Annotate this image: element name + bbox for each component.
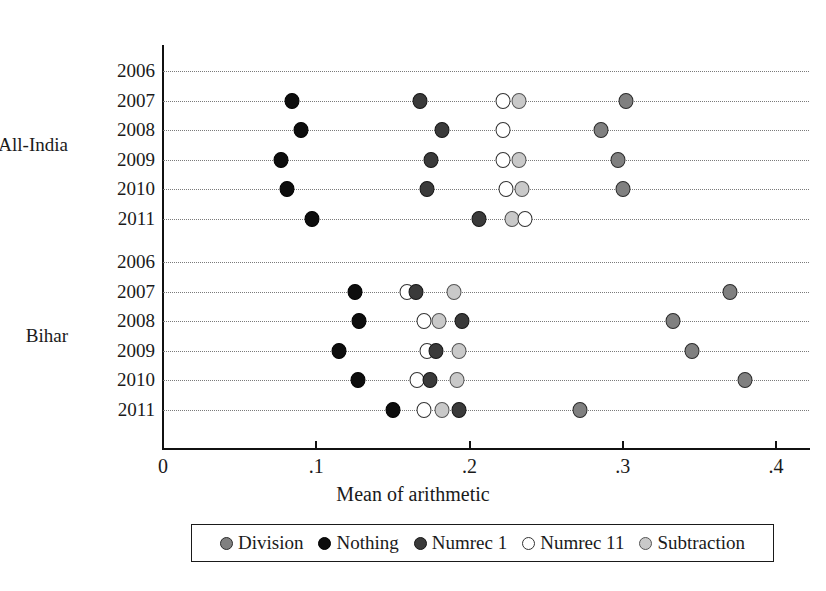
legend-swatch-numrec-11-icon bbox=[522, 537, 535, 550]
data-point-numrec-1 bbox=[419, 181, 434, 197]
x-tick-label-3: .3 bbox=[593, 455, 653, 477]
legend-label: Nothing bbox=[336, 533, 398, 553]
data-point-division bbox=[611, 152, 626, 168]
data-point-numrec-11 bbox=[496, 122, 511, 138]
x-tick-mark bbox=[622, 441, 624, 450]
data-point-numrec-11 bbox=[499, 181, 514, 197]
data-point-numrec-11 bbox=[517, 211, 532, 227]
legend-swatch-subtraction-icon bbox=[639, 537, 652, 550]
data-point-division bbox=[684, 343, 699, 359]
legend-swatch-division-icon bbox=[220, 537, 233, 550]
x-tick-mark bbox=[775, 441, 777, 450]
y-group-label-bihar: Bihar bbox=[0, 326, 68, 345]
data-point-nothing bbox=[274, 152, 289, 168]
data-point-numrec-11 bbox=[416, 402, 431, 418]
data-point-division bbox=[572, 402, 587, 418]
y-tick-label-2008: 2008 bbox=[85, 311, 155, 330]
y-tick-label-2007: 2007 bbox=[85, 282, 155, 301]
y-tick-label-2009: 2009 bbox=[85, 341, 155, 360]
data-point-nothing bbox=[293, 122, 308, 138]
data-point-division bbox=[666, 313, 681, 329]
data-point-subtraction bbox=[511, 152, 526, 168]
data-point-nothing bbox=[347, 284, 362, 300]
data-point-numrec-1 bbox=[471, 211, 486, 227]
data-point-subtraction bbox=[431, 313, 446, 329]
data-point-subtraction bbox=[514, 181, 529, 197]
data-point-numrec-11 bbox=[496, 93, 511, 109]
legend-label: Numrec 11 bbox=[540, 533, 624, 553]
x-axis-title: Mean of arithmetic bbox=[0, 482, 826, 506]
data-point-subtraction bbox=[511, 93, 526, 109]
data-point-division bbox=[723, 284, 738, 300]
data-point-division bbox=[738, 372, 753, 388]
x-tick-label-1: .1 bbox=[286, 455, 346, 477]
x-tick-label-0: 0 bbox=[133, 455, 193, 477]
legend-label: Division bbox=[238, 533, 303, 553]
data-point-numrec-11 bbox=[496, 152, 511, 168]
dot-plot-chart: 2006200720082009201020112006200720082009… bbox=[0, 0, 826, 591]
x-tick-label-4: .4 bbox=[746, 455, 806, 477]
y-tick-label-2010: 2010 bbox=[85, 179, 155, 198]
x-tick-mark bbox=[162, 441, 164, 450]
data-point-nothing bbox=[280, 181, 295, 197]
legend-item-subtraction[interactable]: Subtraction bbox=[639, 533, 745, 553]
data-point-subtraction bbox=[450, 372, 465, 388]
data-point-nothing bbox=[304, 211, 319, 227]
x-tick-label-2: .2 bbox=[440, 455, 500, 477]
data-point-subtraction bbox=[451, 343, 466, 359]
y-tick-label-2011: 2011 bbox=[85, 400, 155, 419]
data-marker-layer bbox=[163, 45, 809, 446]
data-point-numrec-1 bbox=[428, 343, 443, 359]
data-point-numrec-1 bbox=[454, 313, 469, 329]
y-tick-label-2006: 2006 bbox=[85, 61, 155, 80]
data-point-nothing bbox=[332, 343, 347, 359]
x-tick-mark bbox=[315, 441, 317, 450]
data-point-nothing bbox=[352, 313, 367, 329]
y-tick-label-2010: 2010 bbox=[85, 370, 155, 389]
data-point-numrec-1 bbox=[434, 122, 449, 138]
data-point-numrec-1 bbox=[451, 402, 466, 418]
legend-item-numrec-1[interactable]: Numrec 1 bbox=[414, 533, 507, 553]
data-point-nothing bbox=[385, 402, 400, 418]
data-point-nothing bbox=[350, 372, 365, 388]
y-tick-label-2009: 2009 bbox=[85, 150, 155, 169]
y-tick-label-2011: 2011 bbox=[85, 209, 155, 228]
legend-swatch-nothing-icon bbox=[318, 537, 331, 550]
y-tick-label-2006: 2006 bbox=[85, 252, 155, 271]
data-point-numrec-1 bbox=[408, 284, 423, 300]
legend-item-division[interactable]: Division bbox=[220, 533, 303, 553]
x-tick-mark bbox=[469, 441, 471, 450]
data-point-nothing bbox=[284, 93, 299, 109]
data-point-division bbox=[594, 122, 609, 138]
y-group-label-all-india: All-India bbox=[0, 135, 68, 154]
data-point-subtraction bbox=[447, 284, 462, 300]
y-tick-label-2007: 2007 bbox=[85, 91, 155, 110]
legend-label: Numrec 1 bbox=[432, 533, 507, 553]
data-point-subtraction bbox=[434, 402, 449, 418]
chart-legend: DivisionNothingNumrec 1Numrec 11Subtract… bbox=[191, 524, 774, 562]
legend-item-nothing[interactable]: Nothing bbox=[318, 533, 398, 553]
data-point-division bbox=[615, 181, 630, 197]
data-point-division bbox=[618, 93, 633, 109]
data-point-numrec-1 bbox=[413, 93, 428, 109]
legend-label: Subtraction bbox=[657, 533, 745, 553]
data-point-numrec-1 bbox=[424, 152, 439, 168]
data-point-numrec-11 bbox=[416, 313, 431, 329]
x-axis-line bbox=[162, 448, 810, 450]
legend-swatch-numrec-1-icon bbox=[414, 537, 427, 550]
legend-item-numrec-11[interactable]: Numrec 11 bbox=[522, 533, 624, 553]
data-point-numrec-1 bbox=[422, 372, 437, 388]
y-tick-label-2008: 2008 bbox=[85, 120, 155, 139]
